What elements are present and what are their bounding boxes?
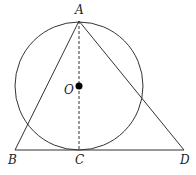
label-d: D (179, 153, 190, 167)
center-dot-o (76, 83, 83, 90)
segment-ad (79, 21, 184, 150)
label-c: C (75, 153, 84, 167)
geometry-diagram: A O B C D (0, 0, 196, 175)
label-b: B (7, 153, 17, 167)
label-o: O (64, 83, 74, 97)
label-a: A (74, 3, 84, 17)
